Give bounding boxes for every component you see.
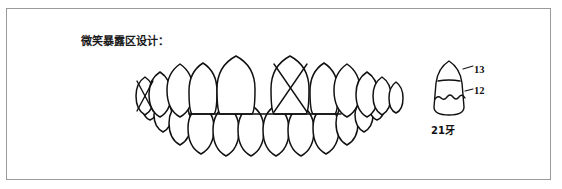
upper-right-central-incisor-marked	[271, 56, 309, 114]
figure-canvas: 微笑暴露区设计：	[0, 0, 562, 189]
dentition-diagram	[130, 52, 422, 158]
zone-label-12: 12	[474, 85, 485, 96]
figure-caption: 微笑暴露区设计：	[81, 35, 169, 49]
tooth-label-21: 21牙	[431, 122, 455, 137]
leader-13	[463, 66, 473, 69]
upper-teeth-row	[136, 56, 403, 117]
zone-label-13: 13	[474, 64, 485, 75]
tooth-outline	[434, 61, 464, 115]
leader-12	[465, 89, 473, 91]
